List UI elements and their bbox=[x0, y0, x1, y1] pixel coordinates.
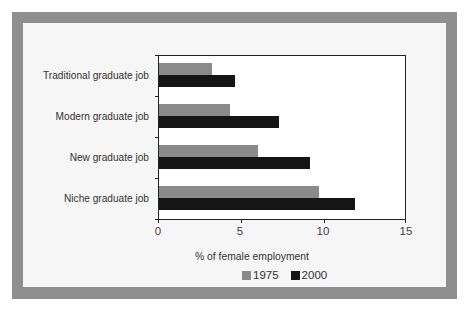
bar-2000-new-graduate-job bbox=[159, 157, 310, 169]
legend-item-2000: 2000 bbox=[291, 269, 328, 281]
x-tick bbox=[158, 219, 159, 223]
category-label-traditional: Traditional graduate job bbox=[26, 69, 149, 81]
chart-panel: Traditional graduate job Modern graduate… bbox=[23, 23, 446, 287]
x-tick-label-5: 5 bbox=[230, 225, 250, 237]
legend: 1975 2000 bbox=[242, 269, 327, 281]
y-tick bbox=[155, 178, 159, 179]
category-label-modern: Modern graduate job bbox=[26, 110, 149, 122]
x-tick-label-0: 0 bbox=[148, 225, 168, 237]
chart-frame: Traditional graduate job Modern graduate… bbox=[12, 12, 457, 299]
legend-label-2000: 2000 bbox=[302, 269, 328, 281]
plot-area bbox=[158, 55, 406, 220]
legend-item-1975: 1975 bbox=[242, 269, 279, 281]
bar-1975-traditional-graduate-job bbox=[159, 63, 212, 75]
category-label-new: New graduate job bbox=[26, 151, 149, 163]
bar-2000-traditional-graduate-job bbox=[159, 75, 235, 87]
y-tick bbox=[155, 96, 159, 97]
bar-1975-modern-graduate-job bbox=[159, 104, 230, 116]
x-axis-title: % of female employment bbox=[195, 250, 375, 262]
bar-1975-new-graduate-job bbox=[159, 145, 258, 157]
x-tick-label-15: 15 bbox=[396, 225, 416, 237]
category-label-niche: Niche graduate job bbox=[26, 192, 149, 204]
legend-swatch-1975 bbox=[242, 271, 251, 280]
bar-1975-niche-graduate-job bbox=[159, 186, 319, 198]
x-tick bbox=[405, 219, 406, 223]
legend-swatch-2000 bbox=[291, 271, 300, 280]
x-tick bbox=[241, 219, 242, 223]
legend-label-1975: 1975 bbox=[253, 269, 279, 281]
y-tick bbox=[155, 137, 159, 138]
bar-2000-niche-graduate-job bbox=[159, 198, 355, 210]
bar-2000-modern-graduate-job bbox=[159, 116, 279, 128]
y-tick bbox=[155, 55, 159, 56]
x-tick bbox=[324, 219, 325, 223]
x-tick-label-10: 10 bbox=[313, 225, 333, 237]
